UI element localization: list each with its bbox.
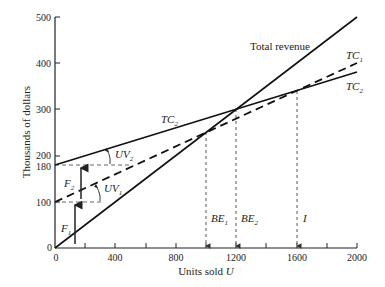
y-tick-500: 500	[36, 12, 51, 23]
x-tick-800: 800	[169, 252, 184, 263]
f2-label: F2	[63, 177, 75, 192]
y-tick-labels: 500 400 300 200 180 100 0	[36, 12, 52, 253]
uv2-arrow-icon	[107, 150, 110, 164]
y-tick-400: 400	[36, 58, 51, 69]
total-revenue-line	[55, 17, 357, 248]
x-tick-400: 400	[108, 252, 123, 263]
x-tick-2000: 2000	[347, 252, 367, 263]
y-tick-100: 100	[36, 197, 51, 208]
tc2-mid-label: TC2	[161, 113, 178, 128]
uv1-arrow-icon	[96, 186, 100, 201]
be1-label: BE1	[211, 212, 228, 227]
uv1-label: UV1	[104, 182, 122, 197]
total-revenue-label: Total revenue	[250, 40, 310, 52]
f1-label: F1	[60, 222, 71, 237]
x-tick-labels: 0 400 800 1200 1600 2000	[54, 252, 368, 263]
x-tick-1200: 1200	[226, 252, 246, 263]
y-tick-180: 180	[36, 161, 51, 172]
y-axis-title: Thousands of dollars	[20, 86, 32, 178]
x-axis-title: Units sold U	[178, 265, 235, 277]
tc2-right-label: TC2	[346, 80, 363, 95]
x-tick-0: 0	[54, 252, 59, 263]
be2-label: BE2	[241, 212, 258, 227]
break-even-chart: 500 400 300 200 180 100 0 0 400 800 1200…	[0, 0, 385, 287]
y-tick-0: 0	[47, 242, 52, 253]
x-tick-1600: 1600	[287, 252, 307, 263]
y-tick-200: 200	[36, 150, 51, 161]
y-tick-300: 300	[36, 104, 51, 115]
i-label: I	[302, 212, 308, 224]
tc1-right-label: TC1	[346, 49, 363, 64]
uv2-label: UV2	[115, 148, 134, 163]
